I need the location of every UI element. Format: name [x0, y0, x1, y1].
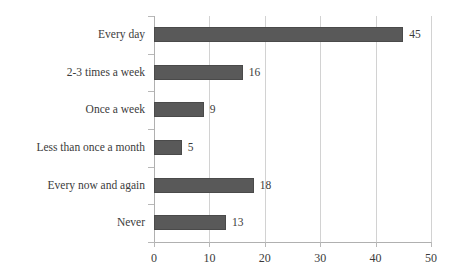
y-axis-tick — [148, 167, 154, 168]
y-axis-tick — [148, 16, 154, 17]
bar-value-label: 18 — [260, 177, 272, 193]
bar — [154, 140, 182, 155]
gridline-10 — [209, 16, 210, 242]
y-axis-tick — [148, 91, 154, 92]
x-axis-tick-40 — [376, 242, 377, 247]
bar — [154, 215, 226, 230]
bar-value-label: 45 — [409, 26, 421, 42]
x-axis-tick-label: 0 — [134, 250, 174, 266]
bar — [154, 27, 403, 42]
x-axis-tick-0 — [154, 242, 155, 247]
x-axis-tick-30 — [320, 242, 321, 247]
gridline-20 — [265, 16, 266, 242]
category-label: Once a week — [0, 102, 145, 116]
x-axis-tick-label: 20 — [245, 250, 285, 266]
bar-value-label: 16 — [249, 64, 261, 80]
bar-value-label: 5 — [188, 139, 194, 155]
x-axis-tick-10 — [209, 242, 210, 247]
category-label: Less than once a month — [0, 140, 145, 154]
x-axis-tick-50 — [431, 242, 432, 247]
category-label: Never — [0, 215, 145, 229]
y-axis-line — [154, 16, 155, 243]
gridline-40 — [376, 16, 377, 242]
category-label: Every now and again — [0, 178, 145, 192]
bar-value-label: 9 — [210, 101, 216, 117]
category-label: Every day — [0, 27, 145, 41]
x-axis-tick-label: 10 — [189, 250, 229, 266]
y-axis-tick — [148, 204, 154, 205]
bar-chart: Every day2-3 times a weekOnce a weekLess… — [0, 0, 455, 276]
y-axis-tick — [148, 54, 154, 55]
bar — [154, 65, 243, 80]
x-axis-tick-label: 50 — [411, 250, 451, 266]
bar-value-label: 13 — [232, 214, 244, 230]
bar — [154, 178, 254, 193]
y-axis-tick — [148, 129, 154, 130]
bar — [154, 102, 204, 117]
category-label: 2-3 times a week — [0, 65, 145, 79]
x-axis-tick-label: 40 — [356, 250, 396, 266]
x-axis-tick-label: 30 — [300, 250, 340, 266]
x-axis-tick-20 — [265, 242, 266, 247]
gridline-50 — [431, 16, 432, 242]
gridline-30 — [320, 16, 321, 242]
x-axis-line — [154, 242, 432, 243]
